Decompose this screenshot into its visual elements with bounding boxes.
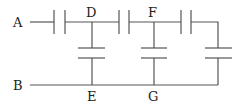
node-label-a: A [13,16,22,29]
node-label-g: G [148,90,158,103]
capacitor-circuit-diagram: A D F B E G [0,0,245,106]
node-label-d: D [86,6,96,19]
node-label-e: E [87,90,97,103]
wire-right-top [191,22,218,48]
circuit-wiring [0,0,245,106]
node-label-b: B [13,79,23,92]
node-label-f: F [148,6,157,19]
